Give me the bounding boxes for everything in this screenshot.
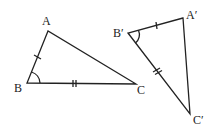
triangle-abc-prime-outline (128, 18, 190, 114)
label-a: A (42, 14, 51, 28)
triangle-abc-prime (128, 18, 190, 114)
label-a-prime: A′ (186, 8, 198, 22)
label-c-prime: C′ (193, 113, 204, 127)
label-c: C (137, 83, 145, 97)
label-b: B (14, 81, 22, 95)
congruent-triangles-diagram: A B C A′ B′ C′ (0, 0, 212, 129)
tick-a-prime-b-prime (156, 22, 157, 29)
angle-arc-b-prime (136, 30, 140, 43)
label-b-prime: B′ (113, 26, 124, 40)
angle-arc-b (32, 72, 41, 83)
tick-b-prime-c-prime-1 (153, 68, 160, 72)
